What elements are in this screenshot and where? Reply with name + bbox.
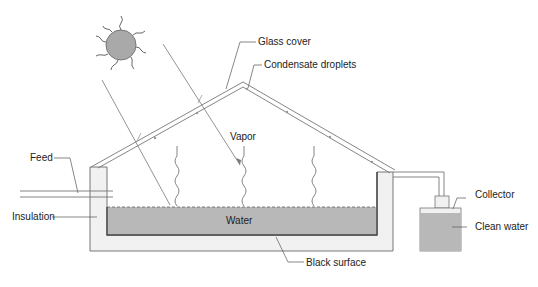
sun-icon — [96, 16, 146, 70]
label-feed: Feed — [30, 152, 53, 163]
label-collector: Collector — [475, 189, 515, 200]
glass-cover — [91, 82, 395, 173]
solar-still-diagram: Glass cover Condensate droplets Vapor Fe… — [0, 0, 538, 287]
label-black-surface: Black surface — [306, 257, 366, 268]
sun-ray-lines — [102, 44, 240, 205]
label-vapor: Vapor — [230, 131, 257, 142]
label-water: Water — [226, 215, 253, 226]
vapor-arrows — [175, 146, 316, 206]
label-glass-cover: Glass cover — [258, 36, 311, 47]
outlet-pipe — [393, 172, 444, 196]
label-insulation: Insulation — [12, 211, 55, 222]
reflection-arrow-icons — [137, 95, 202, 141]
label-condensate-droplets: Condensate droplets — [264, 59, 356, 70]
label-clean-water: Clean water — [475, 221, 529, 232]
